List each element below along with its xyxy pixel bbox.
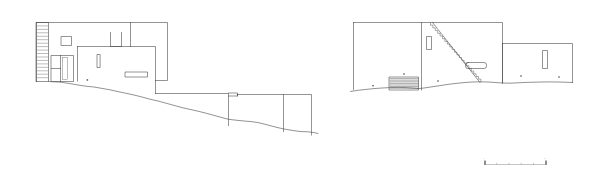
scale-bar-end-left (484, 161, 486, 166)
sheet-background (0, 0, 595, 170)
center-bay-marker-dot (437, 80, 438, 81)
scale-bar-end-right (545, 161, 547, 166)
right-bay-marker-dot-right (558, 76, 559, 77)
right-bay-marker-dot-left (520, 75, 521, 76)
left-bay-marker-dot (372, 85, 373, 86)
level-marker-dot (87, 79, 89, 81)
drawing-sheet: Building Elevations (0, 0, 595, 170)
elevation-drawing-canvas: 0 5 (0, 0, 595, 170)
terraced-step-treads (390, 79, 419, 89)
left-bay-upper-marker-dot (403, 73, 404, 74)
